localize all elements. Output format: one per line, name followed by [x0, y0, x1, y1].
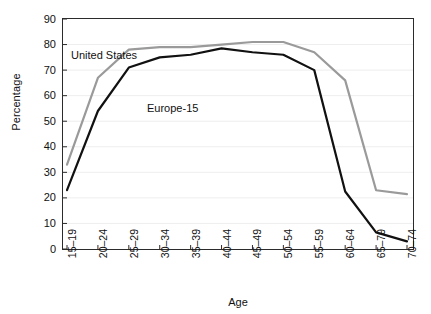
y-tick-label: 80: [32, 39, 56, 50]
y-axis-tick-labels: 90 80 70 60 50 40 30 20 10 0: [28, 0, 56, 314]
y-axis-title: Percentage: [10, 52, 22, 152]
x-tick-label: 60–64: [345, 229, 356, 275]
x-tick-label: 70–74: [407, 229, 418, 275]
x-tick-label: 65–79: [376, 229, 387, 275]
x-tick-label: 40–44: [222, 229, 233, 275]
y-tick-label: 90: [32, 14, 56, 25]
annotation-united-states: United States: [71, 50, 137, 61]
y-tick-label: 60: [32, 90, 56, 101]
x-axis-title: Age: [62, 296, 414, 308]
x-tick-label: 25–29: [129, 229, 140, 275]
y-tick-label: 30: [32, 167, 56, 178]
x-tick-label: 50–54: [283, 229, 294, 275]
x-tick-label: 20–24: [98, 229, 109, 275]
y-tick-label: 50: [32, 116, 56, 127]
x-tick-label: 55–59: [314, 229, 325, 275]
chart-figure: Percentage 90 80 70 60 50 40 30 20 10 0 …: [0, 0, 431, 314]
x-axis-tick-labels: 15–19 20–24 25–29 30–34 35–39 40–44 45–4…: [62, 252, 414, 298]
series-line-europe-15: [67, 48, 407, 241]
plot-area: United States Europe-15: [62, 18, 414, 250]
x-tick-marks: [67, 245, 407, 249]
x-tick-label: 30–34: [160, 229, 171, 275]
x-tick-label: 35–39: [191, 229, 202, 275]
y-tick-marks: [63, 19, 67, 249]
x-tick-label: 45–49: [252, 229, 263, 275]
x-tick-label: 15–19: [67, 229, 78, 275]
annotation-europe-15: Europe-15: [147, 103, 198, 114]
y-tick-label: 70: [32, 65, 56, 76]
series-line-united-states: [67, 42, 407, 194]
y-tick-label: 20: [32, 192, 56, 203]
y-tick-label: 40: [32, 141, 56, 152]
y-tick-label: 0: [32, 244, 56, 255]
y-tick-label: 10: [32, 218, 56, 229]
